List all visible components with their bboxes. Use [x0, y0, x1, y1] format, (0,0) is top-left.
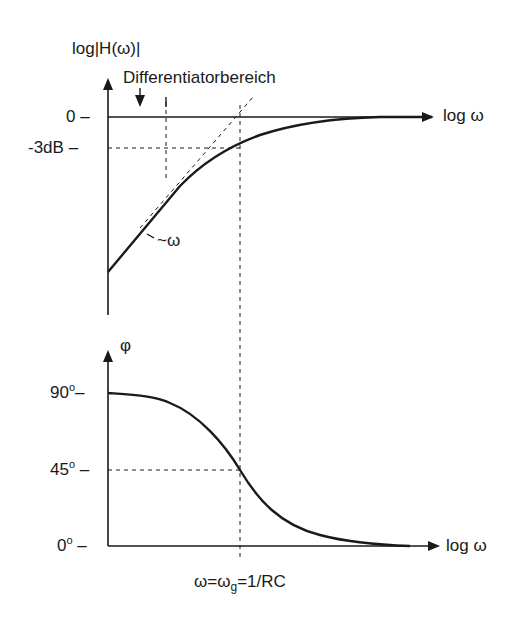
phase-x-label: log ω	[446, 537, 487, 554]
phase-curve	[108, 393, 410, 546]
magnitude-y-label: log|H(ω)|	[72, 40, 140, 57]
differentiator-region-label: Differentiatorbereich	[123, 69, 276, 86]
bode-diagram	[0, 0, 526, 623]
tick-0deg: 0o –	[57, 537, 87, 554]
tick-45deg: 45o –	[50, 461, 89, 478]
corner-frequency-label: ω=ωg=1/RC	[194, 573, 286, 590]
phase-y-label: φ	[120, 337, 131, 354]
tick-90deg: 90o–	[50, 384, 85, 401]
tick-minus3db: -3dB –	[28, 139, 78, 156]
slope-leader	[147, 234, 154, 238]
magnitude-x-label: log ω	[443, 107, 484, 124]
tick-zero: 0 –	[66, 108, 90, 125]
slope-label: ~ω	[157, 232, 180, 249]
